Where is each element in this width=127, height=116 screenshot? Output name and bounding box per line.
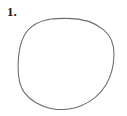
figure-canvas — [0, 0, 127, 116]
hand-drawn-circle-figure — [0, 0, 127, 116]
circle-shape — [18, 18, 114, 109]
worksheet-page: 1. — [0, 0, 127, 116]
